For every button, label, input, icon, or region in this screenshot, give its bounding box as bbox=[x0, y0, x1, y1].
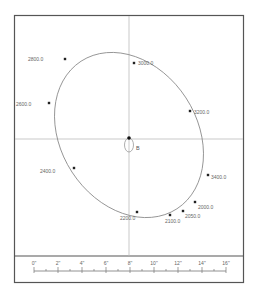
orbit-point-label: 2200.0 bbox=[120, 215, 136, 221]
orbit-point-marker bbox=[182, 210, 184, 212]
orbit-point-marker bbox=[207, 174, 209, 176]
orbit-point-label: 2800.0 bbox=[28, 56, 44, 62]
orbit-point-marker bbox=[64, 58, 66, 60]
orbit-point-marker bbox=[136, 211, 138, 213]
orbit-point-label: 3400.0 bbox=[211, 174, 227, 180]
orbit-point-label: 2600.0 bbox=[16, 101, 32, 107]
ruler-label: 10" bbox=[150, 260, 158, 266]
orbit-point-marker bbox=[189, 110, 191, 112]
orbit-point-marker bbox=[73, 167, 75, 169]
orbit-point-marker bbox=[169, 214, 171, 216]
ruler-label: 8" bbox=[128, 260, 133, 266]
orbit-point-label: 2100.0 bbox=[165, 218, 181, 224]
orbit-point-label: 2050.0 bbox=[185, 213, 201, 219]
ruler-label: 12" bbox=[174, 260, 182, 266]
ruler-label: 6" bbox=[104, 260, 109, 266]
orbit-point-marker bbox=[194, 201, 196, 203]
orbit-point-label: 2000.0 bbox=[198, 204, 214, 210]
orbit-point-label: 2400.0 bbox=[40, 168, 56, 174]
center-point bbox=[127, 136, 131, 140]
ruler-label: 0" bbox=[32, 260, 37, 266]
ruler-label: 16" bbox=[222, 260, 230, 266]
orbit-point-label: 3000.0 bbox=[138, 60, 154, 66]
center-label: B bbox=[136, 145, 140, 151]
orbit-point-label: 3200.0 bbox=[194, 109, 210, 115]
ruler-label: 4" bbox=[80, 260, 85, 266]
orbit-diagram: B 2800.03000.02600.03200.02400.03400.020… bbox=[0, 0, 257, 298]
ruler-label: 14" bbox=[198, 260, 206, 266]
ruler-label: 2" bbox=[56, 260, 61, 266]
orbit-point-marker bbox=[133, 62, 135, 64]
orbit-point-marker bbox=[48, 102, 50, 104]
